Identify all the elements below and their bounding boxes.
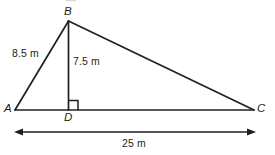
right-angle-mark-icon <box>69 101 79 111</box>
vertex-label-a: A <box>4 103 12 115</box>
geometry-figure: B A D C 8.5 m 7.5 m 25 m <box>0 0 275 155</box>
dimension-arrow-head-right <box>247 128 256 135</box>
measurement-label-side-ab: 8.5 m <box>12 48 39 59</box>
vertex-label-b: B <box>64 6 72 18</box>
top-edge-artifact <box>66 0 76 1</box>
dimension-arrow-head-left <box>14 128 23 135</box>
dimension-arrow-ac <box>14 128 256 135</box>
vertex-label-d: D <box>64 112 73 124</box>
measurement-label-base-ac: 25 m <box>122 138 146 149</box>
triangle-drawing <box>0 0 275 155</box>
measurement-label-altitude-bd: 7.5 m <box>73 56 100 67</box>
vertex-label-c: C <box>257 103 266 115</box>
side-ab-line <box>15 21 69 110</box>
